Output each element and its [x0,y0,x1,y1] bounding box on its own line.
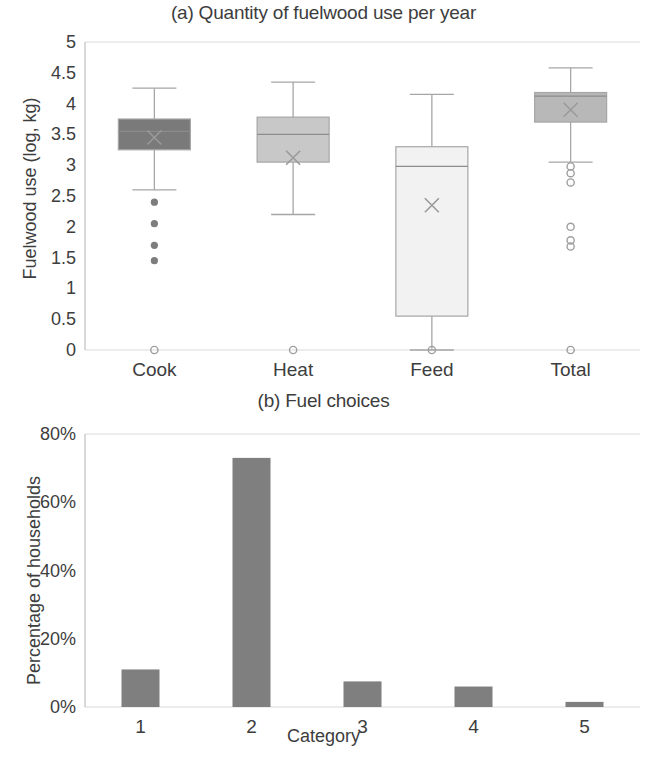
y-tick-label: 0.5 [51,309,76,329]
boxplot-heat [257,82,329,354]
outlier-point [151,257,158,264]
panel-a-plot: 00.511.522.533.544.55CookHeatFeedTotal [0,0,647,390]
y-tick-label: 20% [40,629,76,649]
outlier-point [151,199,158,206]
y-tick-label: 1.5 [51,248,76,268]
y-tick-label: 4 [66,94,76,114]
x-category-label: Cook [132,359,177,380]
panel-b-barchart: (b) Fuel choices Percentage of household… [0,390,647,757]
y-tick-label: 2 [66,217,76,237]
y-tick-label: 4.5 [51,63,76,83]
outlier-point [567,223,574,230]
bar-category-3 [344,681,382,707]
box-iqr [396,147,468,316]
bar-category-2 [233,458,271,707]
boxplot-cook [118,88,190,353]
bar-category-4 [455,687,493,707]
y-tick-label: 1 [66,278,76,298]
x-category-label: Heat [273,359,314,380]
outlier-point [567,179,574,186]
box-iqr [535,93,607,123]
bar-category-1 [122,669,160,707]
figure-container: (a) Quantity of fuelwood use per year Fu… [0,0,647,757]
boxplot-total [535,68,607,354]
outlier-point [151,242,158,249]
outlier-point [151,220,158,227]
panel-a-boxplot: (a) Quantity of fuelwood use per year Fu… [0,0,647,390]
boxplot-feed [396,94,468,353]
box-iqr [118,119,190,150]
x-category-label: Feed [410,359,453,380]
panel-b-plot: 0%20%40%60%80%12345 [0,390,647,757]
y-tick-label: 3.5 [51,124,76,144]
y-tick-label: 60% [40,492,76,512]
x-category-label: Total [551,359,591,380]
y-tick-label: 5 [66,32,76,52]
panel-b-x-axis-title: Category [0,726,647,747]
y-tick-label: 80% [40,424,76,444]
y-tick-label: 40% [40,561,76,581]
y-tick-label: 0 [66,340,76,360]
bar-category-5 [566,702,604,707]
y-tick-label: 3 [66,155,76,175]
y-tick-label: 0% [50,697,76,717]
box-iqr [257,117,329,162]
y-tick-label: 2.5 [51,186,76,206]
